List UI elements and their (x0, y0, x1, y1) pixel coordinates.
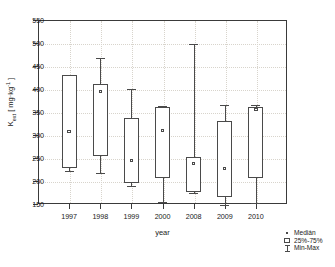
legend: Medián 25%-75% Min-Max (283, 229, 323, 252)
whisker-upper (225, 105, 226, 122)
box-iqr (124, 118, 139, 183)
median-marker (99, 90, 102, 93)
x-tick-mark (163, 204, 164, 209)
median-marker (161, 129, 164, 132)
whisker-cap-lower (158, 202, 167, 203)
box-iqr (93, 84, 108, 156)
whisker-upper (131, 89, 132, 118)
box-marker-icon (283, 237, 292, 245)
legend-item-median: Medián (283, 229, 323, 237)
median-marker-icon (283, 229, 292, 237)
y-tick-label: 550 (4, 16, 44, 25)
y-tick-label: 150 (4, 200, 44, 209)
legend-item-iqr: 25%-75% (283, 237, 323, 245)
x-tick-mark (100, 204, 101, 209)
median-marker (130, 159, 133, 162)
median-marker (67, 130, 70, 133)
y-tick-label: 250 (4, 154, 44, 163)
y-axis-title: Kext [ mg·kg-1 ] (4, 62, 16, 142)
x-tick-mark (194, 204, 195, 209)
whisker-cap-lower (220, 205, 229, 206)
whisker-cap-upper (220, 105, 229, 106)
whisker-upper (100, 58, 101, 84)
whisker-lower (256, 178, 257, 203)
legend-label-iqr: 25%-75% (292, 237, 323, 245)
median-marker (223, 167, 226, 170)
x-tick-label: 2010 (236, 212, 276, 221)
x-tick-mark (131, 204, 132, 209)
whisker-lower (100, 156, 101, 173)
whisker-cap-lower (189, 193, 198, 194)
median-marker (192, 162, 195, 165)
legend-label-median: Medián (292, 229, 316, 237)
y-axis-title-text: Kext [ mg·kg-1 ] (6, 78, 15, 126)
legend-label-range: Min-Max (292, 244, 319, 252)
x-tick-mark (69, 204, 70, 209)
median-marker (254, 108, 257, 111)
whisker-lower (163, 178, 164, 202)
x-axis-title: year (38, 228, 287, 237)
whisker-cap-lower (65, 171, 74, 172)
legend-item-range: Min-Max (283, 244, 323, 252)
whisker-cap-lower (96, 173, 105, 174)
grid-line (39, 67, 286, 68)
box-iqr (248, 107, 263, 177)
whisker-lower (225, 197, 226, 206)
whisker-upper (194, 44, 195, 157)
whisker-cap-upper (96, 58, 105, 59)
whisker-cap-upper (127, 89, 136, 90)
whisker-cap-upper (251, 105, 260, 106)
y-tick-label: 500 (4, 39, 44, 48)
whisker-cap-lower (251, 203, 260, 204)
x-axis-title-text: year (155, 228, 170, 237)
y-tick-label: 200 (4, 177, 44, 186)
boxplot-chart: 150200250300350400450500550 199719981999… (0, 0, 335, 267)
box-iqr (62, 75, 77, 167)
x-tick-mark (256, 204, 257, 209)
whisker-cap-lower (127, 186, 136, 187)
whisker-cap-upper (189, 44, 198, 45)
grid-line (39, 44, 286, 45)
whisker-marker-icon (283, 244, 292, 252)
box-iqr (217, 121, 232, 196)
box-iqr (155, 107, 170, 178)
